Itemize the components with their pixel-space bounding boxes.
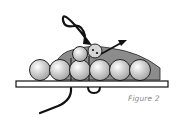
bead-thread-hole bbox=[88, 44, 102, 58]
hole-dot-icon bbox=[96, 52, 98, 54]
thread-small-loop bbox=[88, 87, 100, 93]
bead bbox=[90, 60, 111, 81]
thread-in-arrow-icon bbox=[83, 36, 92, 45]
figure-caption: Figure 2 bbox=[128, 94, 160, 103]
bead bbox=[130, 60, 151, 81]
bead bbox=[30, 60, 51, 81]
base-bar bbox=[16, 81, 168, 87]
bead bbox=[50, 60, 71, 81]
bead bbox=[73, 47, 88, 62]
bead bbox=[110, 60, 131, 81]
hole-dot-icon bbox=[92, 49, 94, 51]
thread-tail bbox=[40, 88, 71, 113]
bead bbox=[70, 60, 91, 81]
